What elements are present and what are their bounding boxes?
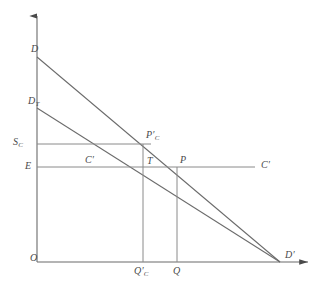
label-expenditure: E: [25, 161, 31, 171]
label-demand-end: D′: [285, 250, 295, 260]
label-supply-cost-subscript: C: [18, 141, 23, 149]
label-quantity-qc-subscript: C: [144, 270, 149, 278]
label-demand-tariff-curve: DT: [28, 96, 39, 108]
label-cost-line-right: C′: [261, 160, 270, 170]
label-cost-line-left: C′: [85, 155, 94, 165]
diagram-figure: O D DT SC E C′ C′ P′C T P Q′C Q D′: [0, 0, 332, 290]
label-point-pc-subscript: C: [155, 134, 160, 142]
label-point-pc: P′C: [146, 130, 159, 142]
demand-curve-line: [37, 57, 280, 262]
label-point-t: T: [147, 156, 153, 166]
label-supply-cost: SC: [13, 137, 23, 149]
diagram-canvas: [0, 0, 332, 290]
label-quantity-q: Q: [173, 266, 180, 276]
label-demand-curve: D: [31, 44, 38, 54]
label-demand-tariff-subscript: T: [35, 100, 39, 108]
label-point-p: P: [180, 155, 186, 165]
label-quantity-qc: Q′C: [134, 266, 148, 278]
label-origin: O: [30, 253, 37, 263]
